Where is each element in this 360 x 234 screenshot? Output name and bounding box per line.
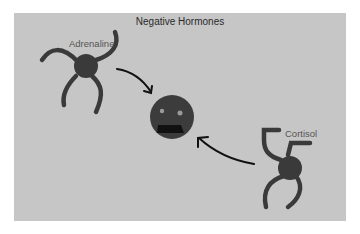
diagram-canvas [0, 0, 360, 234]
cortisol-molecule-icon [264, 130, 310, 207]
adrenaline-label: Adrenaline [69, 38, 114, 49]
distressed-face-icon [150, 95, 194, 139]
arrow-adrenaline-to-face-icon [117, 69, 152, 93]
arrow-cortisol-to-face-icon [198, 137, 254, 164]
cortisol-label: Cortisol [285, 128, 317, 139]
diagram-title: Negative Hormones [0, 16, 360, 27]
